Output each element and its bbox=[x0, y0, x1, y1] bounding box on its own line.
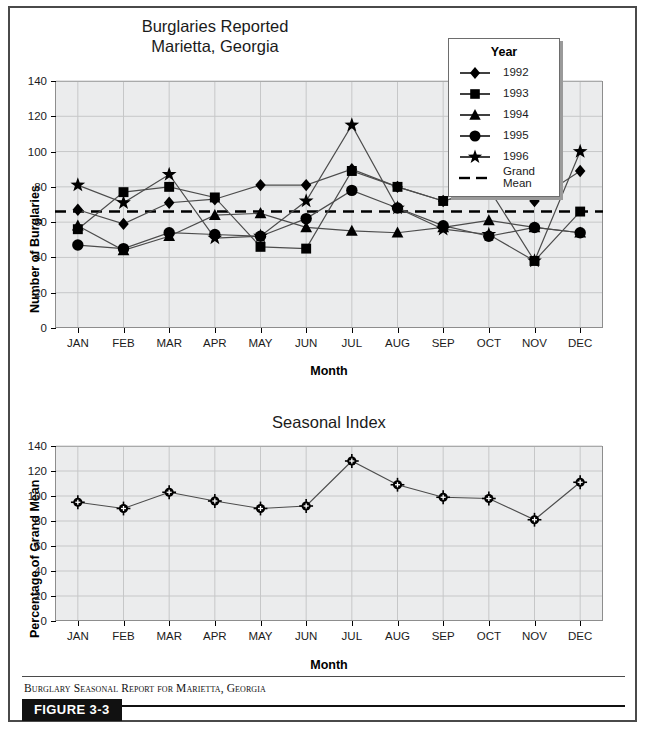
chart2-title: Seasonal Index bbox=[55, 413, 603, 432]
legend-item[interactable]: 1996 bbox=[449, 146, 559, 167]
y-tick-mark bbox=[51, 328, 56, 329]
legend-item[interactable]: 1993 bbox=[449, 83, 559, 104]
x-tick-mark bbox=[306, 621, 307, 626]
y-tick-label: 80 bbox=[15, 181, 47, 193]
y-tick-label: 40 bbox=[15, 251, 47, 263]
chart2-x-axis-label: Month bbox=[310, 658, 347, 672]
legend-triangle-icon bbox=[455, 106, 499, 124]
x-tick-label: MAR bbox=[156, 630, 182, 642]
y-tick-mark bbox=[51, 293, 56, 294]
x-tick-label: JUN bbox=[295, 337, 317, 349]
caption-divider bbox=[22, 676, 625, 677]
chart1-x-axis-label: Month bbox=[310, 364, 347, 378]
y-tick-mark bbox=[51, 571, 56, 572]
x-tick-label: MAR bbox=[156, 337, 182, 349]
x-tick-mark bbox=[169, 328, 170, 333]
y-tick-label: 120 bbox=[15, 465, 47, 477]
legend-item[interactable]: 1992 bbox=[449, 62, 559, 83]
legend-dashed-icon bbox=[455, 169, 499, 187]
figure-frame: Burglaries Reported Marietta, Georgia Nu… bbox=[8, 6, 637, 722]
y-tick-mark bbox=[51, 187, 56, 188]
y-tick-mark bbox=[51, 116, 56, 117]
legend-item[interactable]: Grand Mean bbox=[449, 167, 559, 188]
x-tick-label: SEP bbox=[432, 630, 455, 642]
legend-item-label: 1994 bbox=[503, 109, 529, 121]
legend-item[interactable]: 1994 bbox=[449, 104, 559, 125]
x-tick-mark bbox=[398, 621, 399, 626]
y-tick-mark bbox=[51, 496, 56, 497]
x-tick-mark bbox=[261, 328, 262, 333]
y-tick-label: 20 bbox=[15, 287, 47, 299]
x-tick-label: JUL bbox=[342, 630, 362, 642]
x-tick-label: MAY bbox=[248, 630, 272, 642]
x-tick-label: JUN bbox=[295, 630, 317, 642]
y-tick-mark bbox=[51, 596, 56, 597]
x-tick-mark bbox=[489, 328, 490, 333]
x-tick-mark bbox=[78, 621, 79, 626]
x-tick-mark bbox=[124, 621, 125, 626]
y-tick-mark bbox=[51, 152, 56, 153]
y-tick-label: 80 bbox=[15, 515, 47, 527]
legend-circle-icon bbox=[455, 127, 499, 145]
legend-square-icon bbox=[455, 85, 499, 103]
x-tick-mark bbox=[443, 328, 444, 333]
x-tick-label: NOV bbox=[522, 630, 547, 642]
x-tick-label: JAN bbox=[67, 337, 89, 349]
y-tick-label: 0 bbox=[15, 322, 47, 334]
legend-diamond-icon bbox=[455, 64, 499, 82]
seasonal-index-chart: Seasonal Index Percentage of Grand Mean … bbox=[10, 408, 635, 668]
y-tick-label: 60 bbox=[15, 216, 47, 228]
chart1-legend[interactable]: Year 19921993199419951996Grand Mean bbox=[448, 38, 560, 197]
x-tick-label: FEB bbox=[112, 337, 134, 349]
x-tick-mark bbox=[398, 328, 399, 333]
figure-number-badge: FIGURE 3-3 bbox=[22, 699, 122, 721]
burglaries-reported-chart: Burglaries Reported Marietta, Georgia Nu… bbox=[10, 8, 635, 398]
x-tick-mark bbox=[124, 328, 125, 333]
legend-item-label: Grand Mean bbox=[503, 166, 535, 189]
x-tick-label: JUL bbox=[342, 337, 362, 349]
y-tick-label: 100 bbox=[15, 146, 47, 158]
legend-item-label: 1993 bbox=[503, 88, 529, 100]
x-tick-label: AUG bbox=[385, 337, 410, 349]
y-tick-label: 40 bbox=[15, 565, 47, 577]
x-tick-label: DEC bbox=[568, 630, 592, 642]
y-tick-label: 20 bbox=[15, 590, 47, 602]
x-tick-label: MAY bbox=[248, 337, 272, 349]
x-tick-mark bbox=[535, 621, 536, 626]
y-tick-mark bbox=[51, 81, 56, 82]
y-tick-label: 120 bbox=[15, 110, 47, 122]
x-tick-mark bbox=[78, 328, 79, 333]
legend-item-label: 1995 bbox=[503, 130, 529, 142]
x-tick-label: JAN bbox=[67, 630, 89, 642]
x-tick-mark bbox=[580, 328, 581, 333]
x-tick-label: FEB bbox=[112, 630, 134, 642]
x-tick-mark bbox=[489, 621, 490, 626]
x-tick-label: APR bbox=[203, 630, 227, 642]
y-tick-label: 140 bbox=[15, 440, 47, 452]
figure-caption: Burglary Seasonal Report for Marietta, G… bbox=[24, 682, 266, 694]
x-tick-label: DEC bbox=[568, 337, 592, 349]
y-tick-mark bbox=[51, 471, 56, 472]
x-tick-mark bbox=[215, 328, 216, 333]
y-tick-label: 0 bbox=[15, 615, 47, 627]
y-tick-label: 140 bbox=[15, 75, 47, 87]
x-tick-mark bbox=[261, 621, 262, 626]
legend-item-label: 1992 bbox=[503, 67, 529, 79]
x-tick-mark bbox=[352, 621, 353, 626]
y-tick-mark bbox=[51, 521, 56, 522]
x-tick-mark bbox=[352, 328, 353, 333]
x-tick-mark bbox=[169, 621, 170, 626]
x-tick-label: AUG bbox=[385, 630, 410, 642]
y-tick-mark bbox=[51, 257, 56, 258]
x-tick-mark bbox=[215, 621, 216, 626]
x-tick-label: OCT bbox=[477, 337, 501, 349]
y-tick-mark bbox=[51, 222, 56, 223]
x-tick-label: APR bbox=[203, 337, 227, 349]
legend-title: Year bbox=[449, 45, 559, 59]
chart2-plot-area bbox=[55, 446, 603, 621]
y-tick-mark bbox=[51, 621, 56, 622]
y-tick-label: 60 bbox=[15, 540, 47, 552]
x-tick-label: NOV bbox=[522, 337, 547, 349]
legend-item[interactable]: 1995 bbox=[449, 125, 559, 146]
x-tick-mark bbox=[535, 328, 536, 333]
